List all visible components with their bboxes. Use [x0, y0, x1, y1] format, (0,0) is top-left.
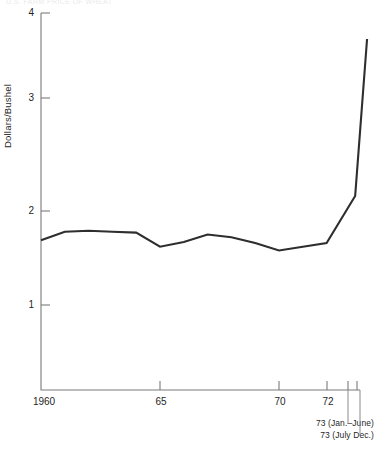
chart-root: U.S. FARM PRICE OF WHEAT Dollars/Bushel …: [0, 0, 379, 454]
plot-area: [0, 0, 379, 454]
data-series-line: [41, 39, 367, 251]
axis-frame: [41, 13, 360, 390]
